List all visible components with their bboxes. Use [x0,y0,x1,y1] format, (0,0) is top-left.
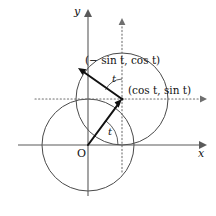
origin-angle-label: t [108,127,112,137]
tangent-point-label: (− sin t, cos t) [85,55,160,66]
origin-label: O [77,148,86,159]
y-axis-arrowhead [84,9,92,17]
point-marker [120,97,123,100]
dotted-horizontal-arrowhead [200,96,207,103]
radius-point-label: (cos t, sin t) [128,85,191,96]
geometry-figure: y x O t t (− sin t, cos t) (cos t, sin t… [0,0,216,216]
x-axis-label: x [198,148,204,159]
dotted-vertical-arrowhead [119,18,126,25]
y-axis-label: y [74,6,80,17]
figure-canvas [0,0,216,216]
point-angle-label: t [112,74,116,84]
tangent-vector [83,72,122,99]
radius-vector [88,105,118,145]
